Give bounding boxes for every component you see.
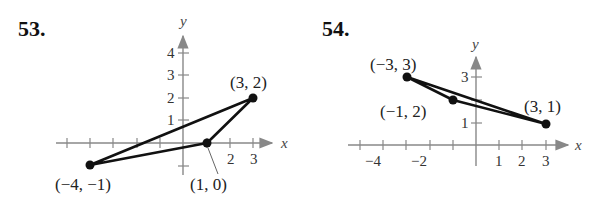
y-tick-label: 3 (461, 69, 469, 85)
y-axis-label: y (178, 13, 187, 29)
point-marker (249, 94, 258, 103)
point-marker (86, 161, 95, 170)
y-tick-label: 2 (167, 90, 175, 106)
x-tick-label: −4 (365, 153, 381, 169)
point-marker (449, 96, 458, 105)
chart-54: 54. x y −4 −2 1 2 3 1 3 (322, 16, 582, 169)
chart-53: 53. x y 2 3 1 2 3 4 (18, 13, 288, 194)
y-tick-label: 1 (461, 115, 469, 131)
point-label: (3, 1) (524, 97, 561, 116)
x-axis-label: x (574, 137, 582, 153)
problem-number-54: 54. (322, 16, 350, 41)
x-axis-label: x (280, 135, 288, 151)
y-tick-label: 3 (167, 67, 175, 83)
point-label: (1, 0) (190, 175, 227, 194)
point-label: (−1, 2) (380, 102, 426, 121)
point-label: (−4, −1) (55, 175, 111, 194)
problem-number-53: 53. (18, 16, 46, 41)
point-label: (3, 2) (230, 73, 267, 92)
point-marker (203, 139, 212, 148)
x-tick-label: 2 (518, 153, 526, 169)
x-tick-label: 3 (542, 153, 550, 169)
point-marker (542, 120, 551, 129)
y-tick-label: 1 (167, 112, 175, 128)
y-tick-label: 4 (167, 45, 175, 61)
label-leader-line (208, 148, 218, 174)
x-tick-label: 3 (250, 151, 258, 167)
x-tick-label: 2 (227, 151, 235, 167)
x-tick-label: −2 (411, 153, 427, 169)
y-axis-label: y (470, 36, 479, 52)
point-label: (−3, 3) (370, 55, 416, 74)
x-tick-label: 1 (495, 153, 503, 169)
figure: 53. x y 2 3 1 2 3 4 (0, 0, 604, 201)
